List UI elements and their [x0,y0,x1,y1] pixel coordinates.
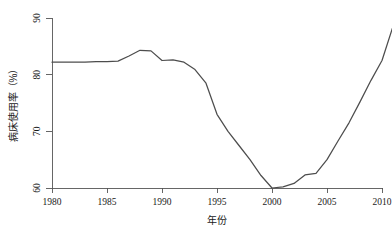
y-tick-label-60: 60 [32,183,42,193]
x-tick-label-1990: 1990 [153,197,172,207]
x-tick-label-2005: 2005 [318,197,337,207]
y-axis-title: 病床使用率（%） [7,64,19,143]
x-axis-title: 年份 [207,214,227,226]
x-tick-label-2000: 2000 [263,197,282,207]
bed-occupancy-line-chart: 90 80 70 60 1980 1985 1990 1995 2000 200… [0,0,392,230]
x-tick-label-1985: 1985 [98,197,117,207]
y-tick-label-80: 80 [32,70,42,80]
chart-background [0,0,392,230]
y-tick-label-90: 90 [32,13,42,23]
y-tick-label-70: 70 [32,126,42,136]
x-tick-label-1995: 1995 [208,197,227,207]
x-tick-label-2010: 2010 [373,197,392,207]
x-tick-label-1980: 1980 [43,197,62,207]
chart-container: 90 80 70 60 1980 1985 1990 1995 2000 200… [0,0,392,230]
